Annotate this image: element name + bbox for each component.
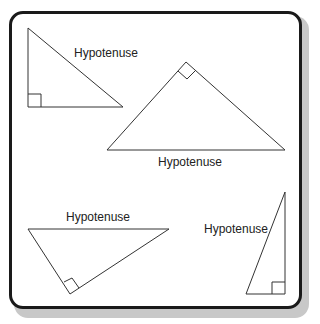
hypotenuse-label-3: Hypotenuse xyxy=(66,210,130,224)
hypotenuse-label-4: Hypotenuse xyxy=(204,222,268,236)
triangle-2 xyxy=(107,62,285,150)
triangle-4 xyxy=(246,192,285,294)
triangle-1 xyxy=(28,28,123,107)
hypotenuse-label-2: Hypotenuse xyxy=(158,155,222,169)
right-angle-marker-1 xyxy=(28,94,41,107)
right-angle-marker-2 xyxy=(178,70,196,79)
right-angle-marker-4 xyxy=(272,282,285,294)
hypotenuse-label-1: Hypotenuse xyxy=(74,46,138,60)
triangle-3 xyxy=(28,229,169,294)
right-angle-marker-3 xyxy=(64,278,79,288)
